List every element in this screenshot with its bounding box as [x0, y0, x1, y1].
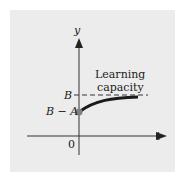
y-axis-arrow-icon — [75, 38, 83, 48]
level-b-minus-a-label: B − A — [45, 105, 78, 118]
origin-label: 0 — [68, 138, 75, 151]
learning-curve — [79, 97, 138, 112]
annotation-line-2: capacity — [97, 81, 144, 94]
level-b-label: B — [63, 89, 72, 102]
annotation-line-1: Learning — [95, 68, 145, 81]
y-axis-label: y — [73, 24, 81, 37]
x-axis-label: t — [156, 130, 161, 143]
learning-curve-diagram: y t 0 B B − A Learning capacity — [0, 0, 185, 180]
